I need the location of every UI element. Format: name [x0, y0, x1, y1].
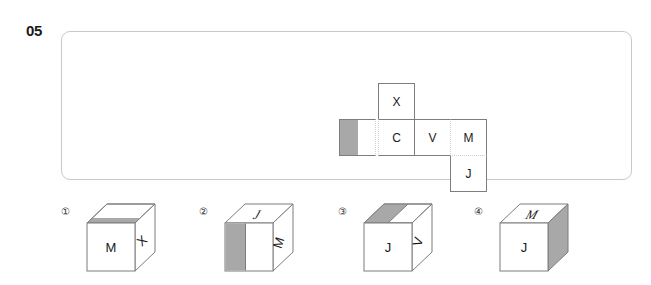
net-cell-c-label: C	[392, 131, 401, 145]
option-4-cube: M J	[494, 200, 580, 282]
shaded-band	[340, 120, 358, 155]
option-1-number: ①	[58, 205, 72, 219]
net-cell-x-label: X	[392, 95, 400, 109]
option-4[interactable]: ④ M J	[468, 198, 618, 285]
net-cell-j: J	[450, 155, 487, 192]
option-3-front-letter: J	[385, 240, 392, 255]
net-cell-m-label: M	[464, 131, 474, 145]
option-2[interactable]: ② J M	[193, 198, 343, 285]
option-4-number: ④	[471, 205, 485, 219]
net-cell-m: M	[450, 119, 487, 156]
answer-options: ① M X ②	[0, 198, 651, 285]
option-3-number: ③	[335, 205, 349, 219]
option-2-shaded-band	[226, 224, 246, 271]
option-3-cube: J V	[358, 200, 444, 282]
net-cell-x: X	[378, 83, 415, 120]
option-1-front-letter: M	[106, 240, 117, 255]
option-4-front-letter: J	[521, 240, 528, 255]
option-1-shaded-band	[87, 218, 140, 223]
option-2-cube: J M	[219, 200, 305, 282]
net-cell-j-label: J	[466, 167, 472, 181]
net-cell-v-label: V	[428, 131, 436, 145]
question-panel: X C V M J	[61, 31, 632, 180]
net-cell-v: V	[414, 119, 451, 156]
question-number: 05	[26, 22, 42, 39]
option-3[interactable]: ③ J V	[332, 198, 482, 285]
option-1[interactable]: ① M X	[55, 198, 205, 285]
cube-net-diagram: X C V M J	[339, 83, 489, 193]
net-cell-blank-shaded	[339, 119, 376, 156]
net-cell-c: C	[378, 119, 415, 156]
option-1-cube: M X	[81, 200, 167, 282]
option-2-number: ②	[196, 205, 210, 219]
